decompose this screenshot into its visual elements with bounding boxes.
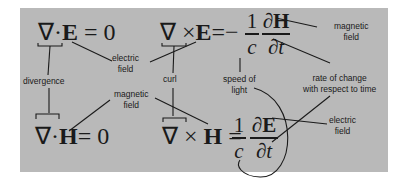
connector-lines [0,0,407,196]
